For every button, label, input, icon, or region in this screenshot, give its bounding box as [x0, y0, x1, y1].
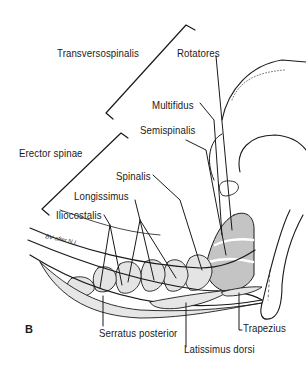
spinalis-segment: [185, 255, 212, 291]
transversospinalis-mass: [205, 213, 254, 292]
latissimus-dorsi-muscle: [150, 290, 230, 309]
label-iliocostalis: Iliocostalis: [56, 209, 102, 221]
label-serratus-posterior: Serratus posterior: [99, 327, 177, 339]
label-transversospinalis: Transversospinalis: [57, 47, 139, 59]
anatomy-diagram: Transversospinalis Rotatores Multifidus …: [0, 0, 306, 367]
label-erector-spinae: Erector spinae: [19, 147, 83, 159]
label-semispinalis: Semispinalis: [140, 124, 195, 136]
vertebral-body: [222, 60, 306, 120]
label-trapezius: Trapezius: [243, 322, 286, 334]
label-spinalis: Spinalis: [116, 170, 151, 182]
label-longissimus: Longissimus: [74, 190, 129, 202]
spinous-process: [261, 210, 303, 319]
label-latissimus-dorsi: Latissimus dorsi: [184, 343, 255, 355]
label-rotatores: Rotatores: [177, 47, 220, 59]
panel-label: B: [25, 323, 33, 335]
label-multifidus: Multifidus: [152, 99, 194, 111]
back-muscles-cross-section: [0, 0, 306, 367]
